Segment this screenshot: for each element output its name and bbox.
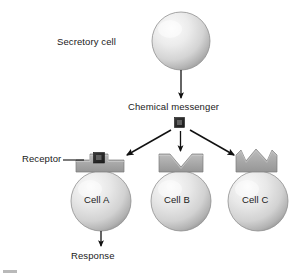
cell-a (71, 153, 131, 232)
cell-c-receptor-icon (236, 149, 277, 172)
diagram-canvas (0, 0, 305, 279)
cell-b (151, 154, 211, 231)
messenger-to-cell-c-arrow (190, 130, 234, 155)
secretory-cell (152, 12, 210, 70)
secretory-cell-label: Secretory cell (57, 36, 116, 47)
caption-artifact (3, 270, 17, 273)
cell-b-label: Cell B (164, 194, 190, 205)
cell-b-receptor-icon (159, 154, 203, 172)
cell-a-label: Cell A (84, 194, 109, 205)
receptor-label: Receptor (22, 153, 61, 164)
chemical-messenger-label: Chemical messenger (128, 101, 219, 112)
response-label: Response (71, 250, 115, 261)
cell-c-label: Cell C (242, 194, 268, 205)
signaling-diagram: Secretory cell Chemical messenger Recept… (0, 0, 305, 279)
cell-c (228, 149, 288, 231)
bound-messenger-icon (94, 153, 105, 164)
messenger-to-cell-a-arrow (127, 130, 171, 155)
chemical-messenger-icon (175, 118, 185, 128)
